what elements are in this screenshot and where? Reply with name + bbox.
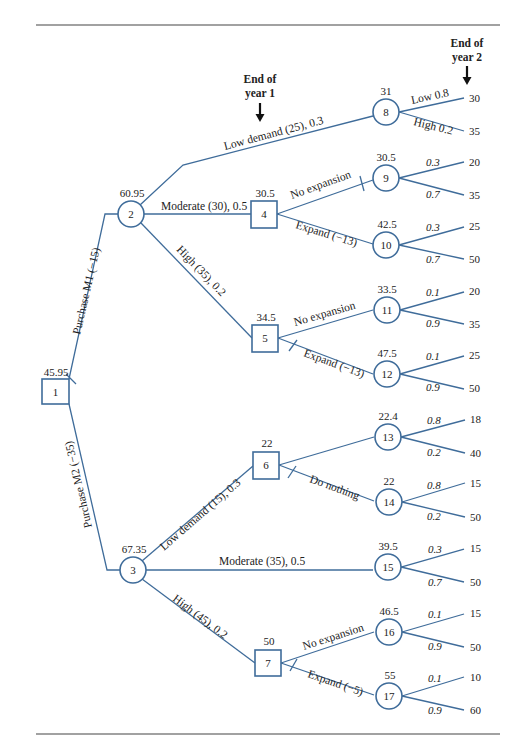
svg-text:0.9: 0.9 [426, 381, 440, 393]
node-15: 15 39.5 [375, 540, 401, 580]
svg-text:22: 22 [384, 475, 395, 487]
svg-text:47.5: 47.5 [377, 347, 397, 359]
label-n2-moderate: Moderate (30), 0.5 [161, 200, 247, 213]
svg-text:17: 17 [384, 690, 396, 702]
node-5: 5 34.5 [252, 311, 278, 352]
svg-text:50: 50 [469, 253, 481, 265]
svg-text:year 1: year 1 [245, 87, 275, 100]
svg-text:50: 50 [470, 641, 482, 653]
svg-text:0.8: 0.8 [427, 414, 441, 426]
pruned-branch-mark [288, 466, 296, 478]
svg-text:40: 40 [470, 447, 482, 459]
svg-text:45.95: 45.95 [44, 366, 69, 378]
svg-text:25: 25 [469, 349, 481, 361]
pruned-branch-mark [289, 340, 297, 351]
node-7: 7 50 [255, 635, 281, 676]
svg-text:35: 35 [469, 189, 481, 201]
svg-text:60: 60 [470, 704, 482, 716]
svg-text:7: 7 [265, 657, 271, 669]
node-2: 2 60.95 [118, 187, 145, 227]
svg-text:14: 14 [384, 496, 396, 508]
edge-n2-high [141, 223, 252, 338]
svg-text:15: 15 [470, 477, 482, 489]
svg-text:0.9: 0.9 [428, 640, 442, 652]
label-purchase-m2: Purchase M2 (−35) [62, 440, 95, 530]
svg-text:0.2: 0.2 [427, 510, 441, 522]
node-16: 16 46.5 [376, 605, 402, 645]
decision-tree-canvas: End of year 1 End of year 2 [0, 0, 511, 738]
svg-text:2: 2 [128, 208, 134, 220]
svg-text:50: 50 [470, 576, 482, 588]
svg-text:0.3: 0.3 [428, 543, 442, 555]
label-purchase-m1: Purchase M1 (−15) [70, 246, 103, 336]
svg-text:0.7: 0.7 [426, 188, 440, 200]
svg-text:30: 30 [469, 92, 481, 104]
label-n4-expand: Expand (−13) [294, 218, 359, 249]
edge-n6-cutback [279, 437, 374, 465]
node-12: 12 47.5 [374, 347, 400, 387]
svg-text:8: 8 [383, 106, 389, 118]
label-n7-expand: Expand (−5) [306, 668, 365, 699]
svg-text:0.1: 0.1 [428, 608, 442, 620]
svg-text:60.95: 60.95 [120, 187, 145, 199]
svg-text:50: 50 [469, 382, 481, 394]
node-14: 14 22 [376, 475, 402, 515]
node-4: 4 30.5 [251, 187, 277, 228]
svg-text:20: 20 [469, 156, 481, 168]
svg-text:67.35: 67.35 [122, 543, 147, 555]
svg-text:Low 0.8: Low 0.8 [410, 86, 450, 106]
svg-text:16: 16 [384, 626, 396, 638]
svg-text:15: 15 [470, 607, 482, 619]
svg-text:31: 31 [381, 85, 392, 97]
svg-text:15: 15 [383, 561, 395, 573]
label-n4-noexp: No expansion [289, 168, 353, 202]
end-of-year1-header: End of year 1 [244, 73, 277, 122]
svg-text:4: 4 [261, 208, 267, 220]
svg-text:20: 20 [469, 285, 481, 297]
node-13: 13 22.4 [375, 410, 401, 450]
svg-text:1: 1 [53, 386, 59, 398]
svg-text:42.5: 42.5 [377, 218, 397, 230]
svg-text:11: 11 [382, 304, 393, 316]
svg-text:33.5: 33.5 [377, 283, 397, 295]
node-11: 11 33.5 [374, 283, 400, 323]
pruned-branch-mark [290, 659, 297, 671]
node-3: 3 67.35 [120, 543, 147, 583]
label-n2-high: High (35), 0.2 [174, 243, 229, 299]
svg-text:39.5: 39.5 [378, 540, 398, 552]
svg-text:0.7: 0.7 [426, 253, 440, 265]
svg-text:0.2: 0.2 [427, 446, 441, 458]
decision-tree-figure: End of year 1 End of year 2 [0, 0, 511, 738]
svg-text:46.5: 46.5 [379, 605, 399, 617]
edge-purchase-m1 [69, 214, 118, 379]
svg-text:0.7: 0.7 [428, 576, 442, 588]
svg-text:5: 5 [262, 332, 268, 344]
svg-text:0.3: 0.3 [426, 221, 440, 233]
label-n2-low: Low demand (25), 0.3 [222, 114, 325, 153]
svg-text:13: 13 [383, 431, 395, 443]
down-arrow-icon [463, 77, 472, 85]
svg-text:0.3: 0.3 [426, 156, 440, 168]
svg-text:22.4: 22.4 [378, 410, 398, 422]
svg-text:50: 50 [470, 511, 482, 523]
label-n6-donothing: Do nothing [308, 473, 362, 503]
svg-text:High 0.2: High 0.2 [412, 115, 454, 137]
svg-text:15: 15 [470, 542, 482, 554]
svg-text:35: 35 [469, 318, 481, 330]
leaf-labels: Low 0.8 High 0.2 30 35 0.3 0.7 20 35 0.3… [410, 86, 482, 716]
node-8: 8 31 [373, 85, 399, 125]
svg-text:6: 6 [263, 459, 269, 471]
node-1: 1 45.95 [42, 366, 69, 404]
end-of-year2-header: End of year 2 [451, 37, 484, 85]
svg-text:year 2: year 2 [452, 51, 482, 64]
svg-text:22: 22 [262, 437, 273, 449]
label-n7-noexp: No expansion [301, 621, 366, 653]
svg-text:12: 12 [382, 368, 393, 380]
label-n5-expand: Expand (−13) [302, 347, 366, 381]
svg-text:10: 10 [381, 239, 393, 251]
svg-text:30.5: 30.5 [255, 187, 275, 199]
svg-text:25: 25 [469, 220, 481, 232]
svg-text:0.1: 0.1 [428, 672, 442, 684]
label-n3-low: Low demand (15), 0.3 [157, 476, 243, 553]
svg-text:End of: End of [451, 37, 484, 49]
